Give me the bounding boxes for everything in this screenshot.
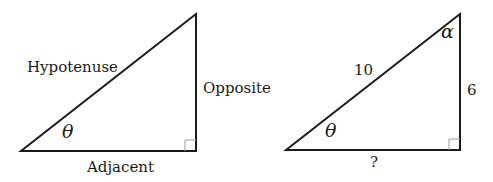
right-hypotenuse-label: 10 xyxy=(354,61,373,79)
left-right-angle-marker xyxy=(185,140,196,151)
right-theta-label: θ xyxy=(325,119,337,141)
right-adjacent-label: ? xyxy=(370,153,378,171)
right-opposite-label: 6 xyxy=(467,81,477,99)
left-adjacent-label: Adjacent xyxy=(86,158,154,176)
right-triangle: 10 6 ? θ α xyxy=(286,14,477,171)
left-hypotenuse-label: Hypotenuse xyxy=(27,58,118,76)
left-triangle: Hypotenuse Opposite Adjacent θ xyxy=(21,14,271,176)
left-triangle-outline xyxy=(21,14,196,151)
right-triangle-outline xyxy=(286,14,460,150)
right-right-angle-marker xyxy=(449,139,460,150)
left-theta-label: θ xyxy=(62,120,74,142)
triangles-diagram: Hypotenuse Opposite Adjacent θ 10 6 ? θ … xyxy=(0,0,493,182)
left-opposite-label: Opposite xyxy=(203,79,271,97)
right-alpha-label: α xyxy=(441,20,454,42)
